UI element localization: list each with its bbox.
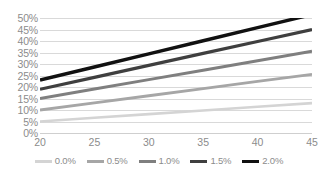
legend-item[interactable]: 2.0% <box>242 156 283 166</box>
y-axis-tick-label: 20% <box>2 82 38 93</box>
x-axis-tick-label: 35 <box>197 136 209 148</box>
x-axis-line <box>40 133 312 134</box>
y-axis-tick-label: 45% <box>2 25 38 36</box>
plot-area <box>40 18 312 133</box>
legend-label: 0.5% <box>107 156 128 166</box>
y-axis-tick-label: 50% <box>2 13 38 24</box>
legend-swatch-icon <box>242 160 259 163</box>
x-axis-tick-label: 30 <box>143 136 155 148</box>
chart-legend: 0.0%0.5%1.0%1.5%2.0% <box>0 153 318 169</box>
legend-item[interactable]: 0.0% <box>35 156 76 166</box>
y-axis-tick-label: 10% <box>2 105 38 116</box>
legend-label: 1.0% <box>159 156 180 166</box>
y-axis-labels: 50%45%40%35%30%25%20%15%10%5%0% <box>0 0 38 174</box>
legend-item[interactable]: 0.5% <box>87 156 128 166</box>
y-axis-tick-label: 30% <box>2 59 38 70</box>
legend-label: 2.0% <box>262 156 283 166</box>
legend-swatch-icon <box>35 160 52 163</box>
legend-label: 1.5% <box>210 156 231 166</box>
legend-label: 0.0% <box>55 156 76 166</box>
y-axis-tick-label: 25% <box>2 71 38 82</box>
x-axis-tick-label: 45 <box>306 136 318 148</box>
y-axis-tick-label: 5% <box>2 117 38 128</box>
x-axis-tick-label: 40 <box>252 136 264 148</box>
x-axis-tick-label: 20 <box>34 136 46 148</box>
legend-swatch-icon <box>190 160 207 163</box>
series-line <box>40 15 312 81</box>
x-axis-tick-label: 25 <box>89 136 101 148</box>
y-axis-tick-label: 15% <box>2 94 38 105</box>
legend-swatch-icon <box>87 160 104 163</box>
legend-swatch-icon <box>139 160 156 163</box>
x-axis-labels: 202530354045 <box>40 136 312 152</box>
legend-item[interactable]: 1.5% <box>190 156 231 166</box>
y-axis-tick-label: 40% <box>2 36 38 47</box>
chart-container: 50%45%40%35%30%25%20%15%10%5%0% 20253035… <box>0 0 318 174</box>
y-axis-tick-label: 35% <box>2 48 38 59</box>
legend-item[interactable]: 1.0% <box>139 156 180 166</box>
y-axis-tick-label: 0% <box>2 128 38 139</box>
series-lines <box>40 18 312 133</box>
